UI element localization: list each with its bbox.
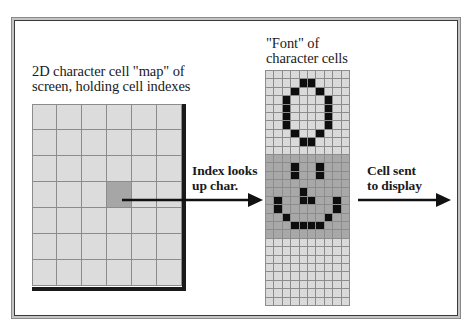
lookup-arrowhead-icon (248, 193, 263, 207)
display-arrowhead-icon (436, 193, 451, 207)
arrows-layer (0, 0, 474, 329)
lookup-arrow (122, 193, 263, 207)
display-arrow (358, 193, 451, 207)
